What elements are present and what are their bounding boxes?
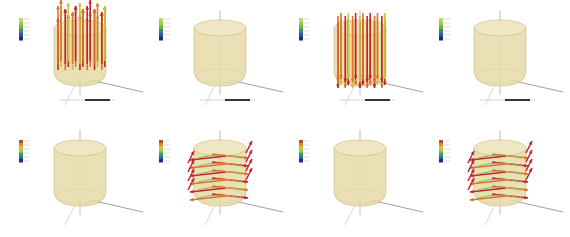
cylinder [474,20,526,86]
color-legend [19,140,30,163]
color-legend [159,140,170,163]
simulation-panel [0,120,145,235]
simulation-panel [280,0,425,115]
color-legend [299,18,310,41]
simulation-panel [420,0,565,115]
cylinder [334,140,386,206]
color-legend [299,140,310,163]
color-legend [19,18,30,41]
color-legend [159,18,170,41]
simulation-panel [140,120,285,235]
color-legend [439,140,450,163]
cylinder [54,140,106,206]
color-legend [439,18,450,41]
cylinder [194,20,246,86]
simulation-panel [0,0,145,115]
simulation-panel [280,120,425,235]
simulation-panel [140,0,285,115]
simulation-panel [420,120,565,235]
